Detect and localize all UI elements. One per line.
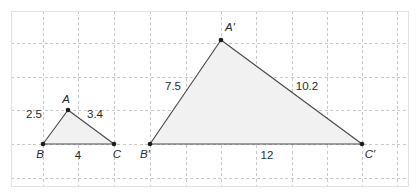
figure-canvas: ABC2.53.44A′B′C′7.510.212	[0, 0, 419, 196]
side-length-label-bc: 4	[75, 149, 82, 161]
vertex-label-a: A	[61, 93, 70, 105]
vertex-label-b: B	[36, 148, 44, 160]
vertex-dot-c	[112, 142, 117, 147]
vertex-label-a-prime: A′	[224, 21, 236, 33]
large-triangle-a-prime-b-prime-c-prime	[150, 40, 362, 144]
geometry-figure: ABC2.53.44A′B′C′7.510.212	[0, 0, 419, 196]
vertex-dot-b-prime	[148, 142, 153, 147]
side-length-label-ac: 3.4	[87, 108, 104, 120]
vertex-dot-a	[66, 108, 71, 113]
vertex-dot-b	[41, 142, 46, 147]
vertex-dot-a-prime	[219, 38, 224, 43]
vertex-label-c-prime: C′	[365, 148, 376, 160]
vertex-label-c: C	[113, 148, 122, 160]
triangles-layer	[43, 40, 362, 144]
vertex-label-b-prime: B′	[140, 148, 151, 160]
small-triangle-abc	[43, 110, 114, 144]
side-length-label-ab: 2.5	[26, 108, 42, 120]
vertex-dot-c-prime	[360, 142, 365, 147]
side-length-label-b-primec-prime: 12	[261, 149, 274, 161]
side-length-label-a-primec-prime: 10.2	[296, 80, 318, 92]
side-length-label-a-primeb-prime: 7.5	[165, 80, 181, 92]
